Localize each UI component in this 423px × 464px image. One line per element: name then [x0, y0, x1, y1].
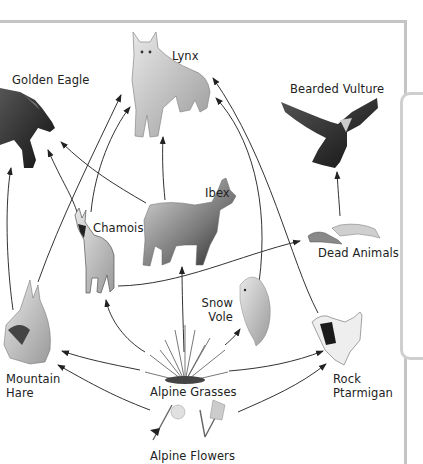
- lynx-icon: [132, 32, 210, 137]
- arrow-grasses-to-ptarmigan: [229, 351, 323, 371]
- label-ibex: Ibex: [205, 186, 230, 200]
- label-snow-vole-line1: Snow: [196, 296, 233, 310]
- label-rock-ptarmigan: Rock Ptarmigan: [333, 372, 393, 400]
- label-snow-vole: Snow Vole: [196, 296, 233, 324]
- label-rock-ptarmigan-line1: Rock: [333, 372, 393, 386]
- label-mountain-hare: Mountain Hare: [6, 372, 60, 400]
- label-alpine-flowers: Alpine Flowers: [150, 449, 235, 463]
- vole-icon: [240, 277, 270, 346]
- label-dead-animals: Dead Animals: [318, 246, 399, 260]
- label-rock-ptarmigan-line2: Ptarmigan: [333, 386, 393, 400]
- ptarmigan-icon: [312, 312, 362, 365]
- arrow-ibex-to-eagle: [61, 142, 146, 203]
- arrow-dead-to-vulture: [337, 172, 340, 216]
- arrow-hare-to-eagle: [7, 168, 13, 310]
- label-lynx: Lynx: [172, 49, 199, 63]
- label-snow-vole-line2: Vole: [196, 310, 233, 324]
- carcass-icon: [308, 224, 380, 244]
- arrow-grasses-to-ibex: [182, 267, 184, 352]
- label-mountain-hare-line1: Mountain: [6, 372, 60, 386]
- grass-icon: [145, 325, 228, 384]
- arrow-grasses-to-vole: [225, 329, 240, 345]
- arrow-chamois-to-eagle: [48, 150, 78, 215]
- arrow-ibex-to-lynx: [163, 137, 165, 200]
- flower-icon: [150, 400, 225, 440]
- eagle-icon: [0, 88, 55, 168]
- label-bearded-vulture: Bearded Vulture: [290, 82, 384, 96]
- arrow-grasses-to-chamois: [106, 300, 145, 352]
- label-alpine-grasses: Alpine Grasses: [150, 385, 237, 399]
- arrow-flowers-to-hare: [58, 365, 150, 410]
- label-chamois: Chamois: [93, 221, 144, 235]
- label-golden-eagle: Golden Eagle: [12, 73, 90, 87]
- arrow-flowers-to-ptarmigan: [238, 364, 326, 412]
- arrow-chamois-to-lynx: [91, 107, 130, 212]
- arrow-grasses-to-hare: [62, 351, 140, 370]
- label-mountain-hare-line2: Hare: [6, 386, 60, 400]
- vulture-icon: [281, 98, 378, 168]
